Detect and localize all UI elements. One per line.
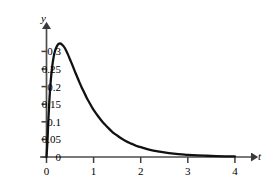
chart-figure: 0.3 0.25 0.2 0.15 0.1 0.05 0 0 1 2 3 4 y… — [0, 0, 277, 194]
x-tick-label-1: 1 — [91, 166, 97, 177]
x-tick-label-3: 3 — [185, 166, 191, 177]
x-tick-label-4: 4 — [232, 166, 238, 177]
density-curve — [47, 44, 235, 157]
y-tick-label-0.15: 0.15 — [42, 99, 61, 110]
y-tick-label-0.3: 0.3 — [47, 46, 61, 57]
y-tick-label-0.25: 0.25 — [42, 64, 61, 75]
y-tick-label-0: 0 — [56, 152, 62, 163]
y-tick-label-0.05: 0.05 — [42, 134, 61, 145]
y-tick-label-0.2: 0.2 — [47, 81, 61, 92]
x-axis-ticks — [47, 157, 235, 163]
y-axis-label: y — [41, 13, 46, 24]
y-tick-label-0.1: 0.1 — [47, 116, 61, 127]
x-tick-label-0: 0 — [44, 166, 50, 177]
x-axis-label: t — [258, 151, 261, 162]
x-tick-label-2: 2 — [138, 166, 144, 177]
x-axis-group — [40, 157, 252, 163]
